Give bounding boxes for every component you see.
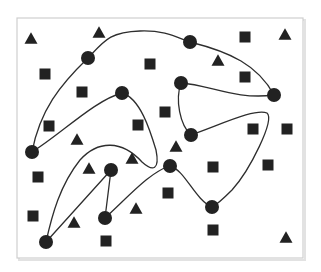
diagram-canvas (0, 0, 321, 272)
square-marker (282, 124, 293, 135)
circle-node (184, 128, 198, 142)
square-marker (240, 32, 251, 43)
square-marker (101, 236, 112, 247)
square-marker (44, 121, 55, 132)
circle-node (163, 159, 177, 173)
square-marker (240, 72, 251, 83)
circle-node (267, 88, 281, 102)
circle-node (183, 35, 197, 49)
square-marker (160, 107, 171, 118)
circle-node (81, 51, 95, 65)
square-marker (208, 162, 219, 173)
circle-node (98, 211, 112, 225)
square-marker (248, 124, 259, 135)
square-marker (163, 188, 174, 199)
circle-node (39, 235, 53, 249)
square-marker (33, 172, 44, 183)
square-marker (208, 225, 219, 236)
square-marker (28, 211, 39, 222)
circle-node (25, 145, 39, 159)
square-marker (145, 59, 156, 70)
shape-scatter-diagram (0, 0, 321, 272)
circle-node (174, 76, 188, 90)
square-marker (133, 120, 144, 131)
square-marker (40, 69, 51, 80)
frame-border (17, 18, 303, 258)
circle-node (104, 163, 118, 177)
square-marker (77, 87, 88, 98)
circle-node (115, 86, 129, 100)
square-marker (263, 160, 274, 171)
diagram-frame (17, 18, 305, 260)
circle-node (205, 200, 219, 214)
